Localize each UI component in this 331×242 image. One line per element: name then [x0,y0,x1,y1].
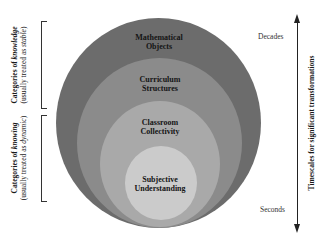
timescale-axis-line [297,20,298,227]
label-curriculum-structures: Curriculum Structures [110,75,210,93]
label-mathematical-objects: Mathematical Objects [109,33,209,51]
label-line: Structures [110,84,210,93]
bracket-sub-text: (usually treated as dynamic) [19,98,28,218]
label-line: Mathematical [109,33,209,42]
emphasis: stable [19,29,28,47]
timescale-axis-label: Timescales for significant transformatio… [307,43,317,203]
text: (usually treated as [19,144,28,200]
label-seconds: Seconds [260,205,285,214]
text: ) [19,116,28,119]
label-subjective-understanding: Subjective Understanding [110,175,210,193]
text: (usually treated as [19,47,28,103]
label-line: Classroom [110,118,210,127]
label-line: Curriculum [110,75,210,84]
label-categories-of-knowing: Categories of knowing (usually treated a… [10,98,30,218]
label-line: Understanding [110,184,210,193]
label-line: Subjective [110,175,210,184]
bracket-main-text: Categories of knowing [10,98,19,218]
arrow-down-icon [294,224,300,233]
text: ) [19,27,28,30]
text: Categories of [10,59,19,103]
label-line: Objects [109,42,209,51]
bracket-knowing [41,115,47,202]
emphasis: knowledge [10,26,19,59]
bracket-knowledge [41,21,47,109]
label-line: Collectivity [110,127,210,136]
emphasis: knowing [10,123,19,150]
text: Categories of [10,149,19,193]
emphasis: dynamic [19,118,28,143]
label-classroom-collectivity: Classroom Collectivity [110,118,210,136]
label-decades: Decades [258,32,283,41]
